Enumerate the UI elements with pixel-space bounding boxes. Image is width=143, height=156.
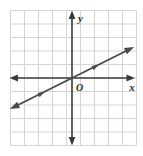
coordinate-plane-figure: y x O (0, 0, 143, 156)
origin-label: O (76, 82, 83, 93)
x-axis-label: x (128, 81, 135, 93)
y-axis-label: y (76, 12, 83, 24)
coordinate-plane-svg: y x O (0, 0, 143, 156)
